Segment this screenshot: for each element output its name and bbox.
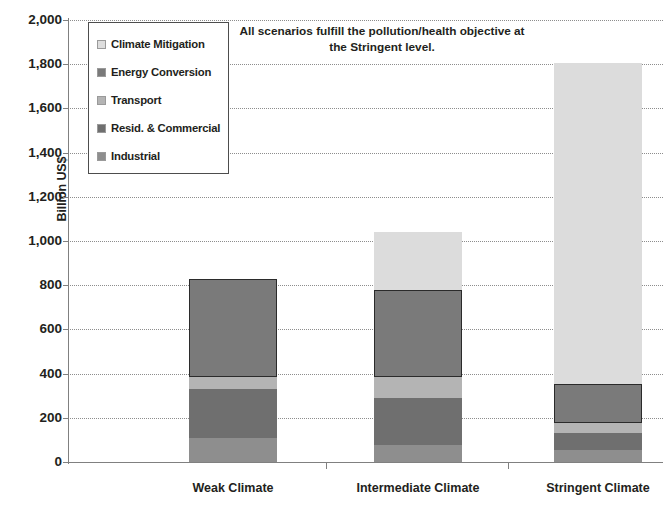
y-axis-tick-mark bbox=[63, 241, 69, 242]
y-axis-tick-label: 200 bbox=[0, 411, 62, 425]
y-axis-tick-label: 1,600 bbox=[0, 102, 62, 116]
legend-swatch-icon bbox=[97, 68, 106, 77]
y-axis-tick-label: 1,000 bbox=[0, 234, 62, 248]
bar-column bbox=[374, 20, 462, 462]
y-axis-tick-mark bbox=[63, 197, 69, 198]
y-axis-tick-mark bbox=[63, 462, 69, 463]
bar-segment bbox=[554, 433, 642, 450]
y-axis-tick-mark bbox=[63, 329, 69, 330]
bar-segment bbox=[189, 389, 277, 438]
bar-segment bbox=[554, 450, 642, 462]
y-axis-tick-mark bbox=[63, 64, 69, 65]
bar-segment bbox=[374, 232, 462, 289]
legend-swatch-icon bbox=[97, 124, 106, 133]
legend-item[interactable]: Industrial bbox=[97, 142, 228, 170]
y-axis-tick-label: 1,800 bbox=[0, 57, 62, 71]
y-axis-tick-label: 800 bbox=[0, 278, 62, 292]
legend-item[interactable]: Energy Conversion bbox=[97, 58, 228, 86]
y-axis-tick-label: 1,400 bbox=[0, 146, 62, 160]
bar-segment bbox=[374, 290, 462, 377]
y-axis-tick-mark bbox=[63, 418, 69, 419]
y-axis-tick-label: 0 bbox=[0, 455, 62, 469]
bar-segment bbox=[374, 398, 462, 446]
legend-swatch-icon bbox=[97, 96, 106, 105]
x-axis-tick-mark bbox=[326, 462, 327, 469]
y-axis-tick-mark bbox=[63, 153, 69, 154]
y-axis-tick-mark bbox=[63, 374, 69, 375]
legend-item[interactable]: Resid. & Commercial bbox=[97, 114, 228, 142]
legend-item-label: Resid. & Commercial bbox=[111, 122, 220, 134]
x-axis-category-label: Stringent Climate bbox=[546, 481, 650, 495]
legend-swatch-icon bbox=[97, 152, 106, 161]
y-axis-tick-mark bbox=[63, 285, 69, 286]
x-axis-tick-mark bbox=[508, 462, 509, 469]
legend-item-label: Climate Mitigation bbox=[111, 38, 205, 50]
bar-segment bbox=[374, 445, 462, 462]
y-axis-tick-labels: 2,0001,8001,6001,4001,2001,0008006004002… bbox=[0, 0, 62, 509]
y-axis-tick-label: 1,200 bbox=[0, 190, 62, 204]
legend-swatch-icon bbox=[97, 40, 106, 49]
bar-segment bbox=[189, 438, 277, 462]
bar-column bbox=[554, 20, 642, 462]
bar-segment bbox=[554, 384, 642, 424]
legend-item[interactable]: Climate Mitigation bbox=[97, 30, 228, 58]
x-axis-category-label: Intermediate Climate bbox=[357, 481, 480, 495]
y-axis-tick-mark bbox=[63, 20, 69, 21]
stacked-bar-chart: Billion US$ 2,0001,8001,6001,4001,2001,0… bbox=[0, 0, 665, 509]
y-axis-tick-mark bbox=[63, 108, 69, 109]
bar-segment bbox=[554, 63, 642, 383]
bar-segment bbox=[189, 279, 277, 377]
bar-segment bbox=[554, 423, 642, 433]
y-axis-tick-label: 2,000 bbox=[0, 13, 62, 27]
chart-legend: Climate MitigationEnergy ConversionTrans… bbox=[88, 22, 229, 174]
x-axis-category-label: Weak Climate bbox=[192, 481, 273, 495]
legend-item[interactable]: Transport bbox=[97, 86, 228, 114]
x-axis-line bbox=[68, 462, 663, 463]
y-axis-tick-label: 600 bbox=[0, 323, 62, 337]
bar-segment bbox=[374, 377, 462, 398]
bar-segment bbox=[189, 377, 277, 389]
legend-item-label: Energy Conversion bbox=[111, 66, 211, 78]
legend-item-label: Industrial bbox=[111, 150, 160, 162]
y-axis-tick-label: 400 bbox=[0, 367, 62, 381]
legend-item-label: Transport bbox=[111, 94, 161, 106]
chart-annotation: All scenarios fulfill the pollution/heal… bbox=[237, 24, 527, 56]
